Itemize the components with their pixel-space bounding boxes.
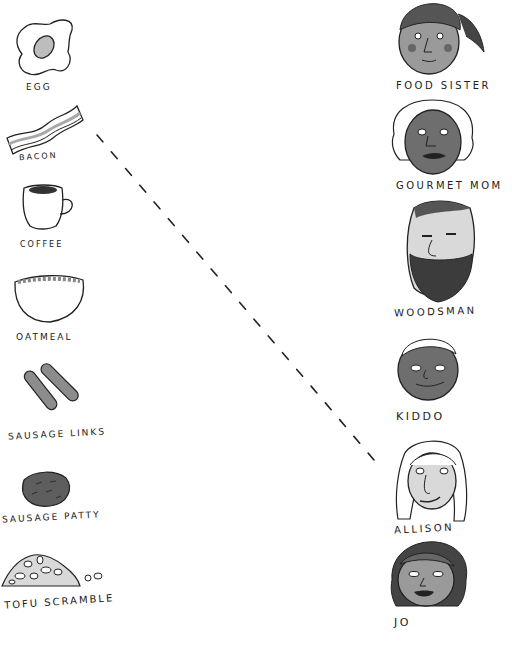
allison-face-icon [390,435,480,525]
person-gourmet-mom[interactable]: GOURMET MOM [388,98,508,196]
person-label: ALLISON [394,521,455,535]
kiddo-face-icon [392,330,472,402]
woodsman-face-icon [392,198,492,304]
person-label: JO [394,616,411,629]
coffee-cup-icon [18,180,84,236]
gourmet-mom-face-icon [388,98,488,176]
food-item-sausage-links[interactable]: SAUSAGE LINKS [8,365,118,445]
food-item-bacon[interactable]: BACON [5,100,85,168]
sausage-patty-icon [16,470,76,510]
food-label: SAUSAGE PATTY [2,509,101,524]
tofu-scramble-icon [0,548,110,590]
food-item-coffee[interactable]: COFFEE [18,180,84,256]
food-item-sausage-patty[interactable]: SAUSAGE PATTY [2,470,122,532]
person-label: WOODSMAN [394,305,477,319]
person-jo[interactable]: JO [386,540,486,640]
food-label: BACON [19,151,58,163]
person-woodsman[interactable]: WOODSMAN [392,198,502,328]
egg-icon [10,14,80,84]
person-label: KIDDO [396,410,445,423]
jo-face-icon [386,540,476,614]
sausage-links-icon [14,365,94,425]
food-item-tofu-scramble[interactable]: TOFU SCRAMBLE [0,548,130,616]
person-label: FOOD SISTER [396,80,491,91]
person-kiddo[interactable]: KIDDO [392,330,492,426]
oatmeal-bowl-icon [10,270,90,326]
food-label: SAUSAGE LINKS [8,426,106,441]
food-label: TOFU SCRAMBLE [4,592,115,611]
person-food-sister[interactable]: FOOD SISTER [392,0,502,95]
person-label: GOURMET MOM [396,180,503,191]
person-allison[interactable]: ALLISON [390,435,500,543]
food-sister-face-icon [392,0,492,78]
food-label: EGG [26,82,52,92]
food-label: COFFEE [20,240,63,249]
food-label: OATMEAL [16,332,73,342]
food-item-egg[interactable]: EGG [10,14,80,96]
food-item-oatmeal[interactable]: OATMEAL [10,270,90,348]
